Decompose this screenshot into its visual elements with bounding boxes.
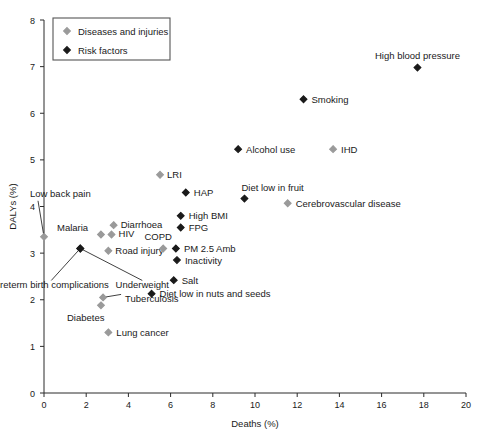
scatter-chart: 02468101214161820012345678Deaths (%)DALY… — [0, 0, 498, 445]
data-point-label: HAP — [194, 187, 214, 198]
data-point-label: Salt — [182, 275, 199, 286]
x-tick-label: 4 — [126, 400, 131, 410]
data-point-marker — [157, 171, 164, 178]
data-point-marker — [100, 294, 107, 301]
data-point-label: Diet low in fruit — [241, 182, 304, 193]
data-point-label: FPG — [189, 222, 209, 233]
data-point-marker — [172, 245, 179, 252]
data-point-marker — [177, 224, 184, 231]
data-point-marker — [41, 233, 48, 240]
x-tick-label: 8 — [210, 400, 215, 410]
chart-legend: Diseases and injuriesRisk factors — [53, 18, 170, 60]
data-point-label: Lung cancer — [116, 327, 168, 338]
data-point-marker — [235, 146, 242, 153]
x-tick-label: 14 — [334, 400, 344, 410]
data-point-marker — [284, 200, 291, 207]
data-point-marker — [177, 212, 184, 219]
y-tick-label: 2 — [30, 295, 35, 305]
data-point-label: IHD — [341, 144, 358, 155]
data-point-label: Malaria — [57, 222, 89, 233]
x-tick-label: 2 — [84, 400, 89, 410]
data-point-marker — [98, 302, 105, 309]
data-point-marker — [300, 96, 307, 103]
data-point-label: Smoking — [312, 94, 349, 105]
plot-canvas: 02468101214161820012345678Deaths (%)DALY… — [0, 0, 498, 445]
data-point-marker — [105, 329, 112, 336]
data-point-label: High blood pressure — [375, 50, 460, 61]
data-point-label: Cerebrovascular disease — [296, 198, 401, 209]
data-point-marker — [182, 189, 189, 196]
legend-label: Risk factors — [78, 45, 128, 56]
x-tick-label: 0 — [41, 400, 46, 410]
y-tick-label: 7 — [30, 62, 35, 72]
x-tick-label: 16 — [377, 400, 387, 410]
data-point-marker — [414, 64, 421, 71]
data-point-marker — [108, 231, 115, 238]
data-point-label: High BMI — [189, 210, 228, 221]
data-point-label: Diabetes — [67, 312, 105, 323]
x-tick-label: 10 — [250, 400, 260, 410]
data-point-marker — [98, 231, 105, 238]
y-tick-label: 4 — [30, 202, 35, 212]
data-point-label: HIV — [119, 228, 135, 239]
data-point-label: Road injury — [115, 245, 163, 256]
data-point-marker — [330, 146, 337, 153]
x-tick-label: 12 — [292, 400, 302, 410]
data-point-label: Preterm birth complications — [0, 279, 109, 290]
data-point-marker — [110, 222, 117, 229]
data-point-label: Diet low in nuts and seeds — [160, 288, 271, 299]
data-point-label: Low back pain — [30, 188, 91, 199]
data-point-marker — [105, 247, 112, 254]
y-axis-title: DALYs (%) — [7, 183, 18, 229]
data-point-marker — [170, 277, 177, 284]
y-tick-label: 1 — [30, 342, 35, 352]
data-point-label: Inactivity — [185, 255, 222, 266]
data-points: Low back painMalariaDiarrhoeaHIVRoad inj… — [0, 50, 460, 338]
data-point-label: LRI — [167, 169, 182, 180]
x-tick-label: 20 — [461, 400, 471, 410]
y-tick-label: 8 — [30, 16, 35, 26]
data-point-label: PM 2.5 Amb — [184, 243, 236, 254]
data-point-label: Alcohol use — [246, 144, 295, 155]
data-point-marker — [174, 257, 181, 264]
x-tick-label: 18 — [419, 400, 429, 410]
y-tick-label: 0 — [30, 389, 35, 399]
y-tick-label: 6 — [30, 109, 35, 119]
y-tick-label: 5 — [30, 155, 35, 165]
legend-label: Diseases and injuries — [78, 26, 169, 37]
y-tick-label: 3 — [30, 249, 35, 259]
x-axis-title: Deaths (%) — [231, 418, 279, 429]
data-point-label: COPD — [144, 231, 172, 242]
x-tick-label: 6 — [168, 400, 173, 410]
data-point-marker — [241, 195, 248, 202]
label-leader-line — [51, 248, 80, 280]
